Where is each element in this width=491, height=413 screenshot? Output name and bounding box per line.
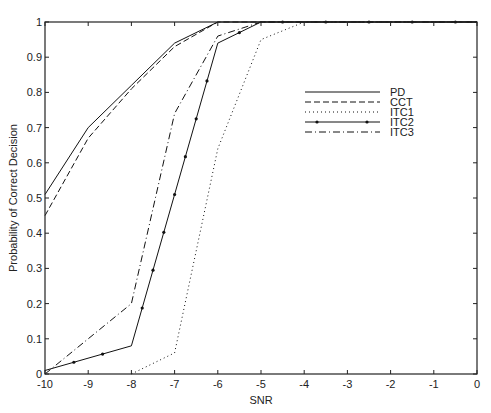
series-marker xyxy=(162,231,165,234)
line-chart: -10-9-8-7-6-5-4-3-2-1000.10.20.30.40.50.… xyxy=(0,0,491,413)
series-marker xyxy=(184,155,187,158)
x-tick-label: -8 xyxy=(127,378,137,390)
y-tick-label: 0.1 xyxy=(27,333,42,345)
y-tick-label: 0 xyxy=(36,368,42,380)
series-line-itc1 xyxy=(131,22,477,374)
y-tick-label: 0.7 xyxy=(27,122,42,134)
legend-marker xyxy=(365,120,368,123)
series-marker xyxy=(173,193,176,196)
series-marker xyxy=(101,352,104,355)
x-axis-title: SNR xyxy=(249,394,272,406)
legend-marker xyxy=(315,120,318,123)
y-axis-title: Probability of Correct Decision xyxy=(7,124,19,272)
y-tick-label: 0.5 xyxy=(27,192,42,204)
x-tick-label: -7 xyxy=(170,378,180,390)
x-tick-label: -2 xyxy=(386,378,396,390)
y-tick-label: 0.6 xyxy=(27,157,42,169)
series-marker xyxy=(151,269,154,272)
series-marker xyxy=(141,306,144,309)
x-tick-label: -4 xyxy=(299,378,309,390)
y-tick-label: 0.4 xyxy=(27,227,42,239)
y-tick-label: 0.9 xyxy=(27,51,42,63)
x-tick-label: -1 xyxy=(429,378,439,390)
legend-label: ITC3 xyxy=(390,126,414,138)
y-tick-label: 1 xyxy=(36,16,42,28)
plot-frame xyxy=(45,22,477,374)
y-tick-label: 0.8 xyxy=(27,86,42,98)
x-tick-label: -3 xyxy=(343,378,353,390)
y-tick-label: 0.2 xyxy=(27,298,42,310)
x-tick-label: -9 xyxy=(83,378,93,390)
series-marker xyxy=(205,79,208,82)
series-marker xyxy=(72,361,75,364)
series-marker xyxy=(238,31,241,34)
x-tick-label: 0 xyxy=(474,378,480,390)
x-tick-label: -5 xyxy=(256,378,266,390)
y-tick-label: 0.3 xyxy=(27,262,42,274)
x-tick-label: -6 xyxy=(213,378,223,390)
legend: PDCCTITC1ITC2ITC3 xyxy=(305,86,414,138)
series-line-itc2 xyxy=(45,22,477,370)
plot-area xyxy=(45,20,477,374)
series-line-itc3 xyxy=(45,22,477,374)
series-marker xyxy=(195,117,198,120)
axes: -10-9-8-7-6-5-4-3-2-1000.10.20.30.40.50.… xyxy=(27,16,480,390)
